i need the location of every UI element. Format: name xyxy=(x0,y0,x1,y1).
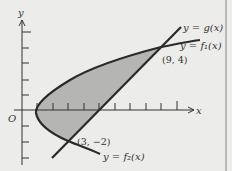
y-axis-label: y xyxy=(17,7,24,18)
curve-label-g: y = g(x) xyxy=(182,22,223,33)
curve-label-f1: y = f₁(x) xyxy=(179,40,222,51)
point-label-3-neg2: (3, −2) xyxy=(77,136,111,147)
origin-label: O xyxy=(8,113,16,124)
area-between-curves-figure: y x O y = g(x) y = f₁(x) y = f₂(x) (9, 4… xyxy=(0,0,232,171)
x-axis-label: x xyxy=(196,105,202,116)
curve-label-f2: y = f₂(x) xyxy=(102,151,145,162)
figure-canvas: y x O y = g(x) y = f₁(x) y = f₂(x) (9, 4… xyxy=(0,0,232,171)
point-label-9-4: (9, 4) xyxy=(162,54,188,65)
shaded-region xyxy=(36,47,161,141)
y-ticks xyxy=(22,32,31,158)
